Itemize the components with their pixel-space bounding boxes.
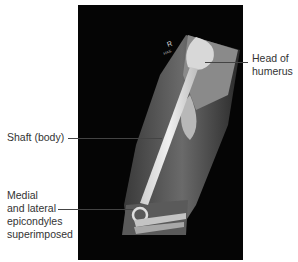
humerus-radiograph: R HAS [78, 5, 243, 260]
head-leader-line [205, 62, 248, 63]
shaft-leader-line [68, 138, 162, 139]
label-head-of-humerus: Head of humerus [252, 52, 293, 78]
xray-image: R HAS [78, 5, 243, 260]
svg-text:HAS: HAS [163, 48, 173, 56]
label-shaft: Shaft (body) [7, 131, 64, 144]
label-epicondyles: Medial and lateral epicondyles superimpo… [7, 189, 73, 241]
svg-text:R: R [166, 40, 173, 48]
